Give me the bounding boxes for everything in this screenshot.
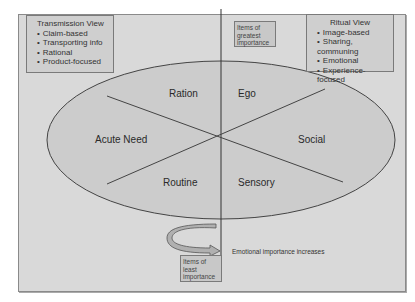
list-item: Rational [37,48,109,58]
ritual-view-list: Image-based Sharing, communing Emotional… [311,28,389,85]
emotional-importance-label: Emotional importance increases [232,248,325,255]
transmission-view-box: Transmission View Claim-based Transporti… [26,15,114,73]
segment-ego: Ego [238,88,256,99]
list-item: Claim-based [37,29,109,39]
list-item: Emotional [317,56,389,66]
list-item: Product-focused [37,57,109,67]
segment-ration: Ration [169,88,198,99]
ritual-view-title: Ritual View [311,18,389,28]
transmission-view-list: Claim-based Transporting info Rational P… [31,29,109,67]
least-importance-label: Items of least importance [180,255,222,282]
transmission-view-title: Transmission View [31,19,109,29]
list-item: Image-based [317,28,389,38]
segment-sensory: Sensory [238,177,275,188]
list-item: Transporting info [37,38,109,48]
segment-acute-need: Acute Need [95,134,147,145]
curved-arrow-icon [167,224,220,256]
ritual-view-box: Ritual View Image-based Sharing, communi… [306,14,394,72]
greatest-importance-label: Items of greatest importance [234,21,276,47]
segment-social: Social [298,134,325,145]
list-item: Sharing, communing [317,37,389,56]
segment-routine: Routine [163,177,197,188]
list-item: Experience-focused [317,66,389,85]
